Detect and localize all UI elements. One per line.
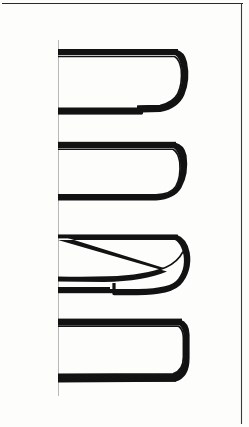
page-border <box>2 4 243 425</box>
profile-2-base-bar <box>58 197 160 200</box>
profile-2-outer-contour <box>58 144 186 199</box>
profile-3-rim-bar <box>58 235 178 239</box>
profile-2-inner-contour <box>58 149 180 195</box>
profile-1-inner-contour <box>58 57 181 109</box>
vessel-profile-1 <box>58 49 187 114</box>
profile-4-base-bar <box>58 378 176 382</box>
profile-2-section-fill <box>58 143 186 200</box>
profile-4-outer-contour <box>58 321 188 381</box>
profile-drawing-canvas <box>0 0 249 427</box>
vessel-profile-4 <box>58 319 188 382</box>
profile-3-foot-step <box>112 283 115 291</box>
profile-4-rim-bar <box>58 319 182 323</box>
profile-3-section-fill <box>58 235 189 294</box>
vessel-profile-2 <box>58 142 186 200</box>
profile-4-inner-contour <box>58 326 183 374</box>
profile-4-section-fill <box>58 320 188 381</box>
profile-2-rim-bar <box>58 142 176 146</box>
profile-1-rim-bar <box>58 49 178 53</box>
profile-1-base-bar <box>58 111 142 114</box>
vessel-profile-3 <box>58 235 189 294</box>
profile-3-base-bar <box>58 290 116 294</box>
pottery-profile-plate: Ceramic vessel profile drawings Archaeol… <box>0 0 249 427</box>
